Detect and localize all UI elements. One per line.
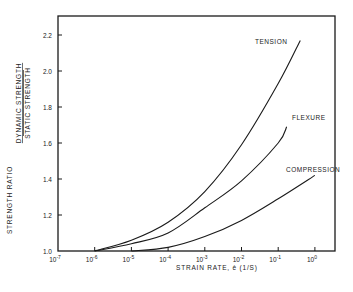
series-label-tension: TENSION [255,38,287,45]
x-tick-label: 10-1 [269,254,281,263]
x-tick-label: 10-7 [49,254,61,263]
x-tick-label: 100 [307,254,317,263]
y-axis-title-numerator: DYNAMIC STRENGTH [15,63,22,143]
x-tick-label: 10-6 [86,254,98,263]
y-tick-label: 2.2 [43,32,52,39]
x-axis-ticks: 10-710-610-510-410-310-210-1100 [49,247,317,263]
x-tick-label: 10-4 [159,254,171,263]
x-tick-label: 10-5 [123,254,135,263]
y-axis-ticks: 1.01.21.41.61.82.02.2 [43,32,62,255]
x-tick-label: 10-2 [233,254,245,263]
y-tick-label: 2.0 [43,68,52,75]
x-tick-label: 10-3 [196,254,208,263]
data-curves [95,40,315,251]
series-label-compression: COMPRESSION [286,166,340,173]
y-tick-label: 1.2 [43,212,52,219]
series-labels: TENSIONFLEXURECOMPRESSION [255,38,340,173]
y-tick-label: 1.8 [43,104,52,111]
curve-compression [131,175,315,251]
curve-tension [95,40,301,251]
y-tick-label: 1.4 [43,176,52,183]
y-tick-label: 1.6 [43,140,52,147]
curve-flexure [95,127,287,251]
strength-ratio-chart: 1.01.21.41.61.82.02.2 10-710-610-510-410… [0,0,353,292]
series-label-flexure: FLEXURE [292,114,326,121]
y-tick-label: 1.0 [43,248,52,255]
x-axis-title: STRAIN RATE, ė (1/S) [176,264,258,272]
y-axis-title: STRENGTH RATIO [6,166,13,234]
y-axis-title-denominator: STATIC STRENGTH [24,67,31,139]
plot-frame [58,16,335,251]
